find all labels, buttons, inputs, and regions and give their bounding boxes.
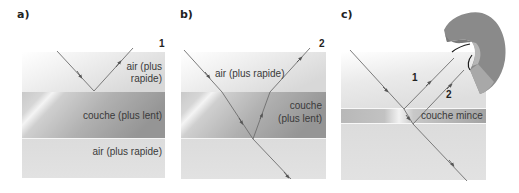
layer-label: couche (plus lent) bbox=[60, 110, 162, 121]
ray-label-2: 2 bbox=[446, 89, 452, 100]
panel-label-c: c) bbox=[341, 8, 353, 21]
top-medium-line2: rapide) bbox=[122, 73, 162, 84]
ray-number-1: 1 bbox=[159, 38, 165, 49]
bottom-medium-label: air (plus rapide) bbox=[60, 146, 162, 157]
air-top-region bbox=[22, 52, 165, 92]
ray-label-1: 1 bbox=[412, 72, 418, 83]
thin-layer-label: couche mince bbox=[421, 110, 483, 121]
top-medium-line1: air (plus bbox=[122, 61, 162, 72]
ray-number-2: 2 bbox=[319, 38, 325, 49]
layer-label-line2: (plus lent) bbox=[262, 113, 322, 124]
panel-label-b: b) bbox=[180, 8, 193, 21]
reflection-diagram bbox=[0, 0, 519, 193]
panel-label-a: a) bbox=[17, 8, 29, 21]
layer-label-line1: couche bbox=[270, 100, 322, 111]
top-medium-label: air (plus rapide) bbox=[215, 68, 284, 79]
air-bottom-region bbox=[22, 139, 165, 178]
